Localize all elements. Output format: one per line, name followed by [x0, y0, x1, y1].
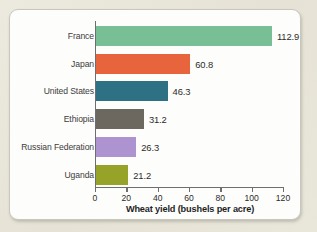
x-axis-tick	[126, 187, 127, 192]
bar-value-label: 31.2	[149, 114, 167, 125]
bar	[95, 165, 128, 185]
bar-value-label: 112.9	[277, 31, 299, 42]
bar-value-label: 46.3	[173, 86, 191, 97]
bar-value-label: 26.3	[141, 142, 159, 153]
y-axis-line	[95, 21, 96, 188]
x-axis-title: Wheat yield (bushels per acre)	[95, 204, 285, 214]
category-label: United States	[10, 86, 94, 96]
x-axis-tick-label: 40	[153, 193, 163, 203]
category-label: Russian Federation	[10, 142, 94, 152]
x-axis-tick-label: 60	[184, 193, 194, 203]
bar	[95, 137, 136, 157]
x-axis-tick	[158, 187, 159, 192]
category-label: Japan	[10, 59, 94, 69]
x-axis-tick	[220, 187, 221, 192]
x-axis-tick	[95, 187, 96, 192]
x-axis-tick-label: 0	[93, 193, 98, 203]
x-axis-tick-label: 20	[122, 193, 132, 203]
bar	[95, 81, 168, 101]
bar	[95, 26, 272, 46]
x-axis-tick-label: 80	[216, 193, 226, 203]
x-axis-tick	[252, 187, 253, 192]
bar-value-label: 21.2	[133, 170, 151, 181]
x-axis-tick	[283, 187, 284, 192]
category-axis-labels: FranceJapanUnited StatesEthiopiaRussian …	[10, 10, 94, 220]
x-axis-tick-label: 100	[244, 193, 258, 203]
category-label: Uganda	[10, 170, 94, 180]
bar-value-label: 60.8	[195, 59, 213, 70]
chart-page: FranceJapanUnited StatesEthiopiaRussian …	[0, 0, 317, 232]
x-axis-tick-label: 120	[276, 193, 290, 203]
bar	[95, 54, 190, 74]
bar	[95, 109, 144, 129]
bar-chart-plot-area: FranceJapanUnited StatesEthiopiaRussian …	[10, 10, 301, 220]
x-axis-tick	[189, 187, 190, 192]
chart-card: FranceJapanUnited StatesEthiopiaRussian …	[9, 9, 301, 220]
category-label: France	[10, 31, 94, 41]
category-label: Ethiopia	[10, 114, 94, 124]
